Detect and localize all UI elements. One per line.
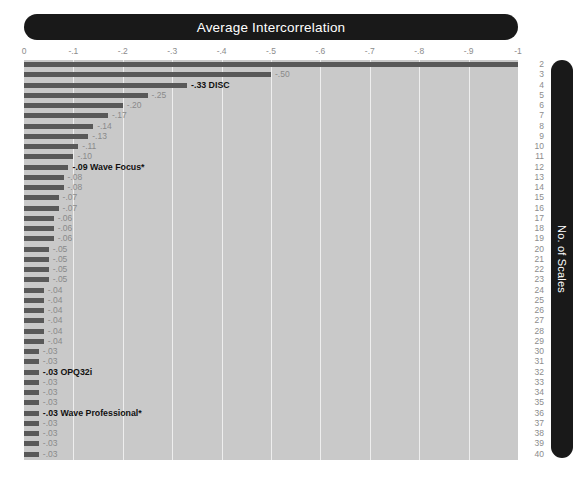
y-axis-title-bar: No. of Scales xyxy=(551,60,573,458)
bar-39 xyxy=(24,441,39,446)
bar-12 xyxy=(24,165,68,170)
bar-row: -.09 Wave Focus* xyxy=(24,163,518,173)
bar-row: -.04 xyxy=(24,296,518,306)
bar-value-label-40: -.03 xyxy=(43,449,58,460)
bar-28 xyxy=(24,329,44,334)
bar-row: -.04 xyxy=(24,306,518,316)
bar-row: -.50 xyxy=(24,70,518,80)
bar-row xyxy=(24,60,518,70)
bar-row: -.03 xyxy=(24,450,518,460)
bar-11 xyxy=(24,154,73,159)
bar-27 xyxy=(24,318,44,323)
scale-number-35: 35 xyxy=(535,397,544,407)
bar-row: -.07 xyxy=(24,204,518,214)
x-axis-tick-10: -1 xyxy=(514,46,522,56)
bar-32 xyxy=(24,370,39,375)
scale-number-26: 26 xyxy=(535,305,544,315)
bar-row: -.03 xyxy=(24,388,518,398)
scale-number-36: 36 xyxy=(535,408,544,418)
bar-16 xyxy=(24,206,59,211)
bar-33 xyxy=(24,380,39,385)
bar-row: -.06 xyxy=(24,214,518,224)
scale-number-2: 2 xyxy=(539,59,544,69)
scale-number-38: 38 xyxy=(535,428,544,438)
bar-row: -.03 xyxy=(24,419,518,429)
bar-4 xyxy=(24,83,187,88)
scale-number-34: 34 xyxy=(535,387,544,397)
bar-30 xyxy=(24,349,39,354)
scale-number-8: 8 xyxy=(539,121,544,131)
bar-row: -.04 xyxy=(24,327,518,337)
bar-value-label-5: -.25 xyxy=(152,90,167,101)
scale-number-5: 5 xyxy=(539,90,544,100)
bar-40 xyxy=(24,452,39,457)
bar-17 xyxy=(24,216,54,221)
bar-row: -.13 xyxy=(24,132,518,142)
scale-number-37: 37 xyxy=(535,418,544,428)
scale-number-39: 39 xyxy=(535,438,544,448)
scale-number-12: 12 xyxy=(535,162,544,172)
bar-row: -.11 xyxy=(24,142,518,152)
x-axis-tick-labels: 0-.1-.2-.3-.4-.5-.6-.7-.8-.9-1 xyxy=(0,46,588,60)
x-axis-tick-8: -.8 xyxy=(414,46,424,56)
bar-10 xyxy=(24,144,78,149)
bar-23 xyxy=(24,277,49,282)
scale-number-6: 6 xyxy=(539,100,544,110)
chart-title: Average Intercorrelation xyxy=(197,20,346,35)
x-axis-tick-4: -.4 xyxy=(217,46,227,56)
scale-number-21: 21 xyxy=(535,254,544,264)
bar-row: -.04 xyxy=(24,316,518,326)
bar-row: -.08 xyxy=(24,173,518,183)
bar-row: -.03 Wave Professional* xyxy=(24,409,518,419)
scale-number-14: 14 xyxy=(535,182,544,192)
scale-number-11: 11 xyxy=(535,151,544,161)
bar-24 xyxy=(24,288,44,293)
bar-row: -.05 xyxy=(24,275,518,285)
scale-number-31: 31 xyxy=(535,356,544,366)
x-axis-tick-0: 0 xyxy=(22,46,27,56)
scale-number-22: 22 xyxy=(535,264,544,274)
chart-title-bar: Average Intercorrelation xyxy=(24,14,518,40)
x-axis-tick-3: -.3 xyxy=(167,46,177,56)
bar-row: -.03 xyxy=(24,378,518,388)
scale-number-24: 24 xyxy=(535,285,544,295)
bar-row: -.05 xyxy=(24,245,518,255)
x-axis-tick-9: -.9 xyxy=(464,46,474,56)
bar-annotation-36: -.03 Wave Professional* xyxy=(43,408,142,419)
scale-number-28: 28 xyxy=(535,326,544,336)
scale-number-29: 29 xyxy=(535,336,544,346)
scale-number-4: 4 xyxy=(539,80,544,90)
bar-29 xyxy=(24,339,44,344)
bar-3 xyxy=(24,72,271,77)
scale-number-30: 30 xyxy=(535,346,544,356)
bar-36 xyxy=(24,411,39,416)
scale-number-13: 13 xyxy=(535,172,544,182)
x-axis-tick-5: -.5 xyxy=(266,46,276,56)
bar-row: -.08 xyxy=(24,183,518,193)
bar-8 xyxy=(24,124,93,129)
x-axis-tick-2: -.2 xyxy=(118,46,128,56)
bar-15 xyxy=(24,195,59,200)
bar-38 xyxy=(24,431,39,436)
scale-number-10: 10 xyxy=(535,141,544,151)
bar-value-label-7: -.17 xyxy=(112,110,127,121)
bar-row: -.05 xyxy=(24,265,518,275)
scale-number-27: 27 xyxy=(535,315,544,325)
bar-row: -.04 xyxy=(24,337,518,347)
bar-7 xyxy=(24,113,108,118)
bar-21 xyxy=(24,257,49,262)
bar-row: -.25 xyxy=(24,91,518,101)
bar-annotation-12: -.09 Wave Focus* xyxy=(72,162,144,173)
bar-row: -.05 xyxy=(24,255,518,265)
plot-area: -.50-.33 DISC-.25-.20-.17-.14-.13-.11-.1… xyxy=(24,60,518,460)
scale-number-33: 33 xyxy=(535,377,544,387)
bar-2 xyxy=(24,62,518,67)
x-axis-tick-1: -.1 xyxy=(68,46,78,56)
scale-number-40: 40 xyxy=(535,449,544,459)
bar-row: -.04 xyxy=(24,286,518,296)
bar-13 xyxy=(24,175,64,180)
bar-34 xyxy=(24,390,39,395)
bar-row: -.06 xyxy=(24,224,518,234)
bar-9 xyxy=(24,134,88,139)
bar-row: -.07 xyxy=(24,193,518,203)
